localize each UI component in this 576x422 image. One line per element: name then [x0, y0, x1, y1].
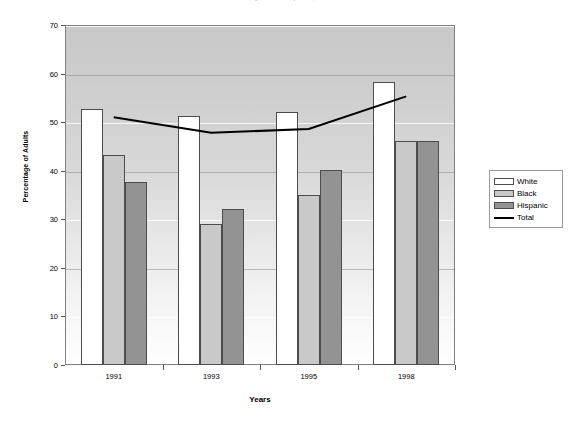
y-axis-tick-label: 60	[24, 69, 58, 78]
x-axis-tick-label: 1993	[203, 372, 220, 381]
legend-label: Black	[517, 189, 537, 198]
x-axis-tick-mark	[260, 365, 261, 370]
x-axis-tick-label: 1995	[300, 372, 317, 381]
legend-item-black[interactable]: Black	[494, 187, 559, 199]
total-line	[114, 96, 407, 132]
y-axis-tick-label: 0	[24, 361, 58, 370]
total-line-layer	[65, 25, 455, 365]
y-axis-tick-label: 30	[24, 215, 58, 224]
legend-swatch-hispanic-icon	[494, 202, 514, 209]
legend-swatch-white-icon	[494, 178, 514, 185]
x-axis-tick-mark	[163, 365, 164, 370]
chart-legend: WhiteBlackHispanicTotal	[489, 170, 563, 228]
y-axis-tick-label: 50	[24, 118, 58, 127]
legend-label: Hispanic	[517, 201, 548, 210]
x-axis-title: Years	[65, 395, 455, 404]
chart-container: Percentage of Adults by Race, 1991-1998 …	[0, 0, 576, 422]
legend-label: White	[517, 177, 537, 186]
y-axis-tick-label: 70	[24, 21, 58, 30]
y-axis-tick-label: 20	[24, 263, 58, 272]
x-axis-tick-mark	[358, 365, 359, 370]
y-axis-tick-mark	[61, 365, 65, 366]
legend-swatch-total-icon	[494, 217, 514, 219]
chart-title: Percentage of Adults by Race, 1991-1998	[0, 0, 576, 3]
x-axis-tick-label: 1998	[398, 372, 415, 381]
x-axis-tick-label: 1991	[105, 372, 122, 381]
y-axis-tick-label: 10	[24, 312, 58, 321]
legend-item-hispanic[interactable]: Hispanic	[494, 199, 559, 211]
legend-item-white[interactable]: White	[494, 175, 559, 187]
y-axis-tick-label: 40	[24, 166, 58, 175]
x-axis-tick-mark	[455, 365, 456, 370]
legend-label: Total	[517, 213, 534, 222]
legend-swatch-black-icon	[494, 190, 514, 197]
legend-item-total[interactable]: Total	[494, 211, 559, 223]
